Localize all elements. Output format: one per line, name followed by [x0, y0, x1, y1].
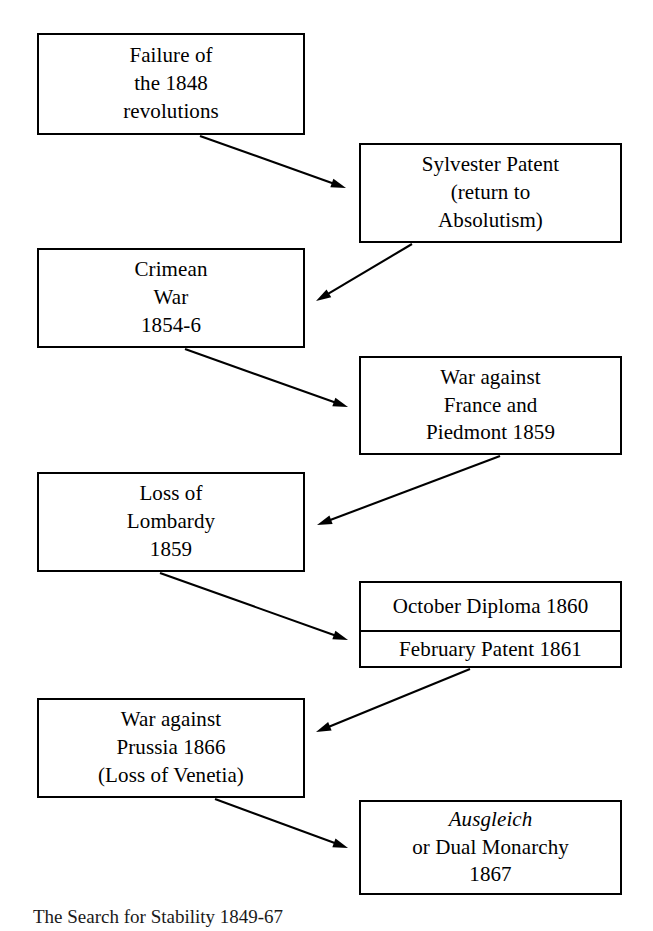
node-line: Lombardy	[127, 508, 215, 536]
arrow-head	[332, 631, 348, 640]
arrow-line	[326, 244, 412, 295]
node-october-diploma-february-patent[interactable]: October Diploma 1860 February Patent 186…	[359, 581, 622, 668]
node-line: Crimean	[134, 256, 207, 284]
arrow-line	[328, 456, 500, 521]
node-line: War	[154, 284, 189, 312]
arrow-line	[185, 349, 337, 403]
arrow-head	[316, 289, 331, 301]
arrow-head	[316, 722, 332, 732]
node-line: Failure of	[129, 42, 212, 70]
node-crimean-war[interactable]: Crimean War 1854-6	[37, 248, 305, 348]
arrow-head	[332, 838, 348, 848]
node-line: Ausgleich	[449, 806, 533, 834]
october-diploma-cell[interactable]: October Diploma 1860	[361, 583, 620, 632]
node-line: Absolutism)	[438, 207, 543, 235]
node-line: Piedmont 1859	[426, 419, 555, 447]
node-line: revolutions	[123, 98, 219, 126]
node-ausgleich-dual-monarchy[interactable]: Ausgleich or Dual Monarchy 1867	[359, 800, 622, 895]
arrow-line	[160, 573, 337, 636]
february-patent-cell[interactable]: February Patent 1861	[361, 632, 620, 668]
flowchart-page: Failure of the 1848 revolutions Sylveste…	[0, 0, 653, 931]
node-line: 1854-6	[141, 312, 201, 340]
node-line: (return to	[451, 179, 531, 207]
node-line: or Dual Monarchy	[412, 834, 569, 862]
node-line: Loss of	[139, 480, 202, 508]
node-line: (Loss of Venetia)	[98, 762, 244, 790]
arrow-line	[215, 799, 337, 844]
node-failure-of-1848-revolutions[interactable]: Failure of the 1848 revolutions	[37, 33, 305, 135]
october-diploma-label: October Diploma 1860	[393, 593, 589, 621]
node-line: Prussia 1866	[116, 734, 225, 762]
node-line: 1867	[469, 861, 511, 889]
node-line: France and	[444, 392, 538, 420]
arrow-line	[200, 136, 335, 184]
node-war-against-france-and-piedmont[interactable]: War against France and Piedmont 1859	[359, 356, 622, 455]
node-war-against-prussia[interactable]: War against Prussia 1866 (Loss of Veneti…	[37, 698, 305, 798]
node-sylvester-patent[interactable]: Sylvester Patent (return to Absolutism)	[359, 143, 622, 243]
node-line: War against	[440, 364, 540, 392]
arrow-head	[332, 398, 348, 407]
diagram-caption: The Search for Stability 1849-67	[33, 906, 283, 929]
node-loss-of-lombardy[interactable]: Loss of Lombardy 1859	[37, 472, 305, 572]
node-line: the 1848	[134, 70, 208, 98]
february-patent-label: February Patent 1861	[399, 636, 582, 664]
arrow-line	[327, 669, 470, 727]
arrow-head	[317, 515, 333, 525]
node-line: 1859	[150, 536, 192, 564]
node-line: War against	[121, 706, 221, 734]
node-line: Sylvester Patent	[422, 151, 560, 179]
arrow-head	[330, 179, 346, 188]
